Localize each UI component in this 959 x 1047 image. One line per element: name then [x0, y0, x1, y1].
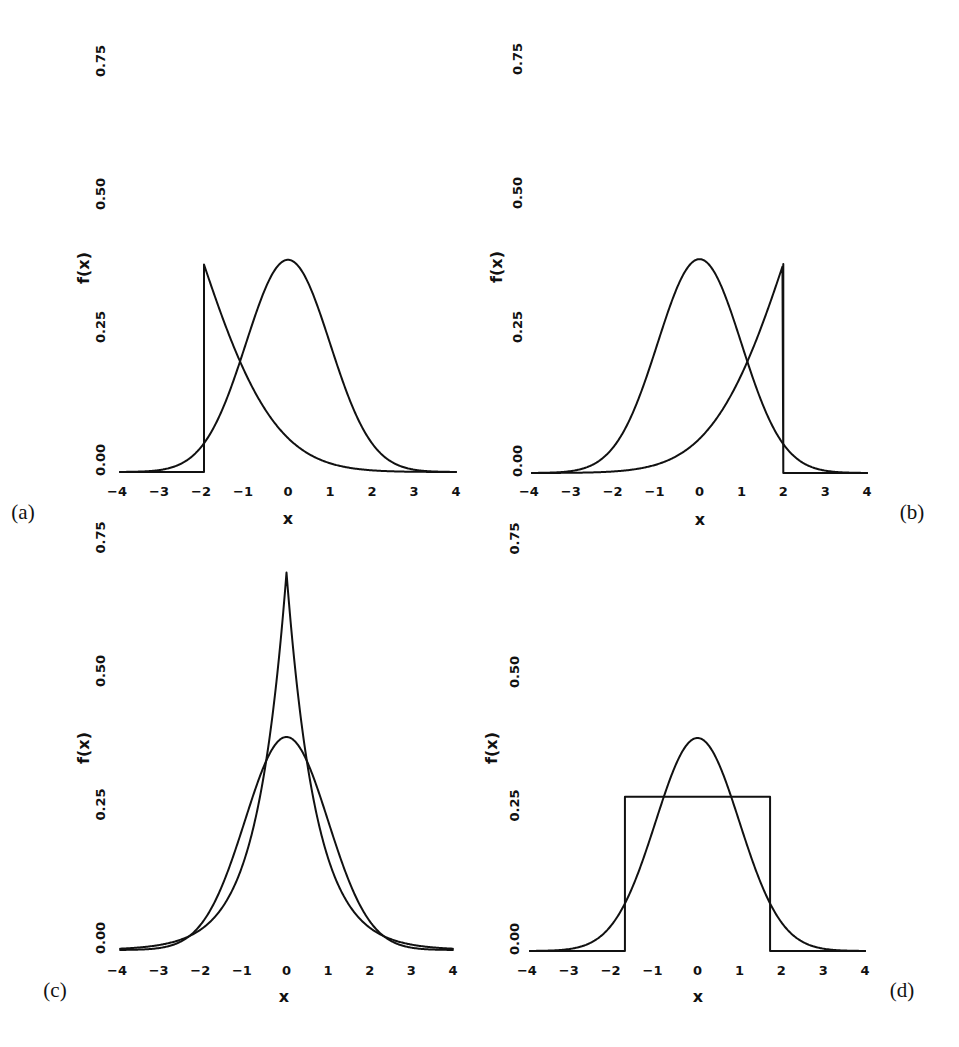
x-tick-label: −1: [643, 963, 663, 978]
x-tick-label: 0: [283, 484, 292, 499]
curve-uniform: [530, 797, 865, 951]
y-tick-label: 0.75: [93, 521, 108, 553]
panel-a: 0.000.250.500.75 −4−3−2−101234 f(x) x (a…: [11, 45, 460, 528]
x-tick-label: −4: [519, 484, 539, 499]
panel-d-label: (d): [890, 978, 915, 1002]
y-tick-label: 0.50: [507, 656, 522, 688]
x-tick-label: 0: [695, 484, 704, 499]
x-tick-label: −2: [601, 963, 621, 978]
x-tick-label: 4: [451, 484, 460, 499]
x-tick-label: 4: [863, 484, 872, 499]
x-tick-label: 3: [819, 963, 828, 978]
y-tick-label: 0.75: [93, 45, 108, 77]
x-tick-label: −1: [233, 484, 253, 499]
panel-c: 0.000.250.500.75 −4−3−2−101234 f(x) x (c…: [43, 521, 457, 1006]
panel-b: 0.000.250.500.75 −4−3−2−101234 f(x) x (b…: [487, 43, 924, 529]
x-tick-label: −1: [645, 484, 665, 499]
y-tick-label: 0.25: [507, 789, 522, 821]
y-tick-label: 0.50: [93, 178, 108, 210]
x-tick-label: 0: [282, 963, 291, 978]
x-tick-label: −3: [559, 963, 579, 978]
y-tick-label: 0.75: [507, 522, 522, 554]
curve-normal: [532, 259, 867, 473]
panel-d: 0.000.250.500.75 −4−3−2−101234 f(x) x (d…: [482, 522, 914, 1006]
x-tick-label: 3: [821, 484, 830, 499]
panel-b-x-axis-title: x: [695, 510, 706, 529]
panel-d-y-axis-title: f(x): [482, 732, 501, 764]
curve-normal: [530, 738, 865, 951]
x-tick-label: 3: [407, 963, 416, 978]
y-tick-label: 0.50: [93, 655, 108, 687]
y-tick-label: 0.00: [93, 444, 108, 476]
panel-b-label: (b): [900, 500, 925, 524]
x-tick-label: −3: [149, 484, 169, 499]
panel-a-y-ticks: 0.000.250.500.75: [93, 45, 108, 476]
y-tick-label: 0.25: [93, 311, 108, 343]
panel-a-x-ticks: −4−3−2−101234: [107, 484, 461, 499]
y-tick-label: 0.50: [510, 177, 525, 209]
panel-a-x-axis-title: x: [283, 509, 294, 528]
panel-b-y-axis-title: f(x): [487, 251, 506, 283]
x-tick-label: 2: [367, 484, 376, 499]
panel-d-x-axis-title: x: [693, 987, 704, 1006]
panel-d-x-ticks: −4−3−2−101234: [517, 963, 870, 978]
x-tick-label: 1: [324, 963, 333, 978]
figure: 0.000.250.500.75 −4−3−2−101234 f(x) x (a…: [0, 0, 959, 1047]
y-tick-label: 0.00: [93, 922, 108, 954]
panel-d-curves: [530, 738, 865, 951]
x-tick-label: 4: [448, 963, 457, 978]
x-tick-label: −3: [149, 963, 169, 978]
panel-b-y-ticks: 0.000.250.500.75: [510, 43, 525, 477]
panel-a-curves: [120, 260, 456, 472]
x-tick-label: −2: [190, 963, 210, 978]
panel-c-y-ticks: 0.000.250.500.75: [93, 521, 108, 954]
curve-laplace: [120, 572, 453, 948]
x-tick-label: −4: [517, 963, 537, 978]
curve-truncated_right: [532, 264, 867, 473]
y-tick-label: 0.25: [510, 311, 525, 343]
panel-d-y-ticks: 0.000.250.500.75: [507, 522, 522, 955]
x-tick-label: 3: [409, 484, 418, 499]
x-tick-label: −2: [603, 484, 623, 499]
curve-normal: [120, 737, 453, 950]
panel-c-curves: [120, 572, 453, 949]
panel-b-curves: [532, 259, 867, 473]
x-tick-label: −2: [191, 484, 211, 499]
x-tick-label: 0: [693, 963, 702, 978]
x-tick-label: 2: [779, 484, 788, 499]
x-tick-label: −4: [107, 484, 127, 499]
x-tick-label: −1: [232, 963, 252, 978]
panel-b-x-ticks: −4−3−2−101234: [519, 484, 872, 499]
curve-normal: [120, 260, 456, 472]
y-tick-label: 0.25: [93, 788, 108, 820]
x-tick-label: 2: [365, 963, 374, 978]
x-tick-label: 1: [325, 484, 334, 499]
panel-c-y-axis-title: f(x): [74, 732, 93, 764]
panel-a-y-axis-title: f(x): [74, 252, 93, 284]
x-tick-label: 4: [861, 963, 870, 978]
x-tick-label: 1: [735, 963, 744, 978]
panel-c-x-axis-title: x: [279, 987, 290, 1006]
y-tick-label: 0.00: [507, 923, 522, 955]
panel-a-label: (a): [11, 500, 34, 524]
y-tick-label: 0.75: [510, 43, 525, 75]
curve-truncated_left: [120, 265, 456, 472]
x-tick-label: −4: [107, 963, 127, 978]
x-tick-label: 2: [777, 963, 786, 978]
panel-c-x-ticks: −4−3−2−101234: [107, 963, 457, 978]
y-tick-label: 0.00: [510, 445, 525, 477]
panel-c-label: (c): [43, 978, 66, 1002]
x-tick-label: −3: [561, 484, 581, 499]
x-tick-label: 1: [737, 484, 746, 499]
